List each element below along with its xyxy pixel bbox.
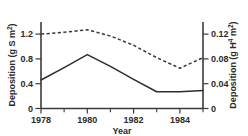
left-y-axis-title: Deposition (g S m2) [6,23,18,106]
right-y-axis-title-end: ) [228,21,238,24]
right-y-axis-title-mid: m [228,28,238,39]
right-y-tick-label-1: 0.04 [211,79,229,89]
x-tick-label-1984: 1984 [170,115,190,125]
x-tick-label-1982: 1982 [124,115,144,125]
x-tick-label-1980: 1980 [77,115,97,125]
chart-figure: 0 0.4 0.8 1.2 0 0.04 0.08 0.12 1978 1980… [0,0,248,136]
right-y-tick-label-2: 0.08 [211,54,229,64]
left-y-tick-label-1: 0.4 [20,79,33,89]
series-line-hydrogen [41,30,203,68]
right-y-tick-label-0: 0 [211,104,216,114]
left-y-axis-title-main: Deposition (g S m [7,30,17,107]
right-y-axis-title-main: Deposition (g H [228,42,238,109]
left-y-tick-label-2: 0.8 [20,54,33,64]
right-y-axis-title: Deposition (g H4 m2) [227,21,239,108]
left-y-tick-label-3: 1.2 [20,29,33,39]
x-tick-label-1978: 1978 [31,115,51,125]
left-y-tick-label-0: 0 [28,104,33,114]
series-line-sulphur [41,55,203,92]
left-y-axis-title-end: ) [7,23,17,26]
right-y-tick-label-3: 0.12 [211,29,229,39]
chart-canvas: 0 0.4 0.8 1.2 0 0.04 0.08 0.12 1978 1980… [0,0,248,136]
x-axis-title: Year [112,126,132,136]
